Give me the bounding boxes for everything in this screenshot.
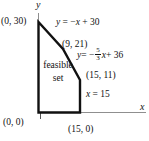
point-label-0-0: (0, 0) [3,117,24,127]
equation-line1: y = −x + 30 [56,17,100,27]
equation-line1-mid: = − [60,17,75,27]
fraction-numerator: 5 [96,47,100,54]
equation-line2-fraction: 53 [95,47,101,63]
y-axis-label: y [36,0,40,10]
equation-line2-mid: = − [81,50,94,60]
feasible-set-label: feasible set [38,59,78,85]
point-label-0-30: (0, 30) [1,16,26,26]
equation-line1-rhs: + 30 [80,17,100,27]
feasible-set-label-line2: set [38,72,78,85]
point-label-15-0: (15, 0) [68,124,93,134]
feasible-set-diagram: y x (0, 30) (9, 21) (15, 11) (0, 0) (15,… [0,0,149,141]
equation-line2-rhs: + 36 [106,50,123,60]
equation-line3-rhs: = 15 [90,89,110,99]
equation-line3: x = 15 [86,89,110,99]
feasible-set-label-line1: feasible [38,59,78,72]
point-label-15-11: (15, 11) [86,70,116,80]
fraction-denominator: 3 [95,54,101,62]
equation-line2: y = −53x + 36 [77,47,123,63]
x-axis-label: x [140,101,144,112]
